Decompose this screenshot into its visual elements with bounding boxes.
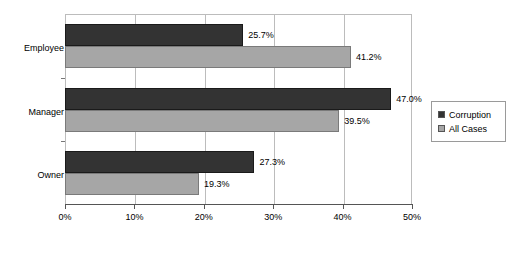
category-tick (61, 78, 65, 79)
x-tick-label: 40% (334, 212, 352, 222)
x-axis-tick (204, 204, 205, 209)
x-axis-tick (65, 204, 66, 209)
x-tick-label: 10% (125, 212, 143, 222)
category-label-owner: Owner (37, 170, 64, 180)
bar-chart: EmployeeManagerOwner 25.7%41.2%47.0%39.5… (0, 0, 512, 253)
x-tick-label: 20% (195, 212, 213, 222)
bar-employee-all-cases[interactable] (65, 46, 351, 68)
all-cases-swatch-icon (438, 125, 445, 132)
bar-manager-corruption[interactable] (65, 88, 391, 110)
category-tick (61, 141, 65, 142)
bar-value-label: 41.2% (356, 52, 382, 62)
legend-label-corruption: Corruption (449, 110, 491, 120)
category-label-employee: Employee (24, 43, 64, 53)
x-axis-tick (343, 204, 344, 209)
x-axis-tick (134, 204, 135, 209)
bar-value-label: 19.3% (204, 179, 230, 189)
x-axis-tick (412, 204, 413, 209)
x-axis-tick (273, 204, 274, 209)
gridline (344, 15, 345, 204)
legend-label-all-cases: All Cases (449, 124, 487, 134)
legend-item-all-cases[interactable]: All Cases (438, 122, 499, 135)
bar-owner-all-cases[interactable] (65, 173, 199, 195)
x-tick-label: 50% (403, 212, 421, 222)
chart-legend: Corruption All Cases (431, 101, 506, 142)
x-tick-label: 30% (264, 212, 282, 222)
bar-value-label: 39.5% (344, 116, 370, 126)
x-axis-line (65, 204, 413, 205)
bar-employee-corruption[interactable] (65, 24, 243, 46)
bar-manager-all-cases[interactable] (65, 110, 339, 132)
x-tick-label: 0% (58, 212, 71, 222)
bar-owner-corruption[interactable] (65, 151, 254, 173)
bar-value-label: 47.0% (396, 94, 422, 104)
bar-value-label: 27.3% (259, 157, 285, 167)
legend-item-corruption[interactable]: Corruption (438, 108, 499, 121)
category-label-manager: Manager (28, 107, 64, 117)
corruption-swatch-icon (438, 111, 445, 118)
bar-value-label: 25.7% (248, 30, 274, 40)
